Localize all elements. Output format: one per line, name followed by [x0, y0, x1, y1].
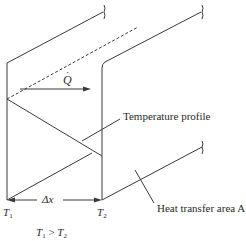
area-leader [135, 170, 154, 203]
t1-label: T1 [3, 207, 13, 220]
left-brace [104, 5, 105, 19]
right-face-top-edge [102, 12, 201, 68]
temperature-profile-line [7, 99, 102, 156]
dashed-edge [7, 27, 138, 99]
temperature-relation: T1 > T2 [36, 227, 67, 240]
temperature-profile-leader [82, 119, 120, 141]
thickness-label: Δx [42, 194, 53, 205]
bottom-brace [202, 141, 203, 154]
right-brace [202, 5, 203, 19]
heat-rate-label: · Q [63, 74, 72, 86]
t2-label: T2 [97, 207, 107, 220]
thickness-arrowhead-right [94, 198, 102, 203]
right-face-bottom-edge [102, 147, 202, 200]
temperature-profile-label: Temperature profile [123, 111, 211, 122]
left-face-top-edge [7, 12, 103, 63]
heat-transfer-area-label: Heat transfer area A [157, 203, 245, 214]
heat-flow-arrowhead [83, 87, 91, 92]
